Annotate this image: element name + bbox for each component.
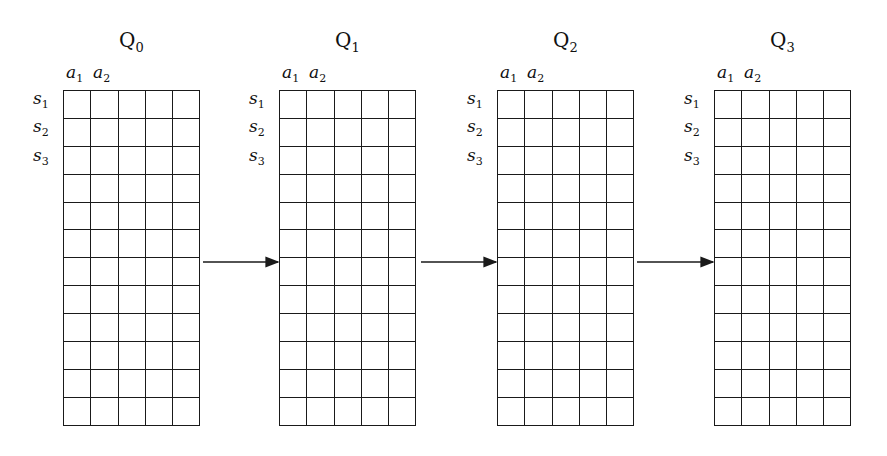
- transition-arrows: [0, 0, 887, 456]
